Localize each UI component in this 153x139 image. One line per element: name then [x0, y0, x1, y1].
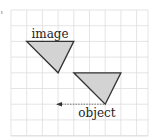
reflection-diagram: image object: [0, 0, 153, 139]
image-label: image: [31, 27, 68, 41]
corner-mark: [1, 11, 3, 14]
arrow-head-icon: [56, 102, 62, 106]
object-label: object: [78, 106, 115, 120]
